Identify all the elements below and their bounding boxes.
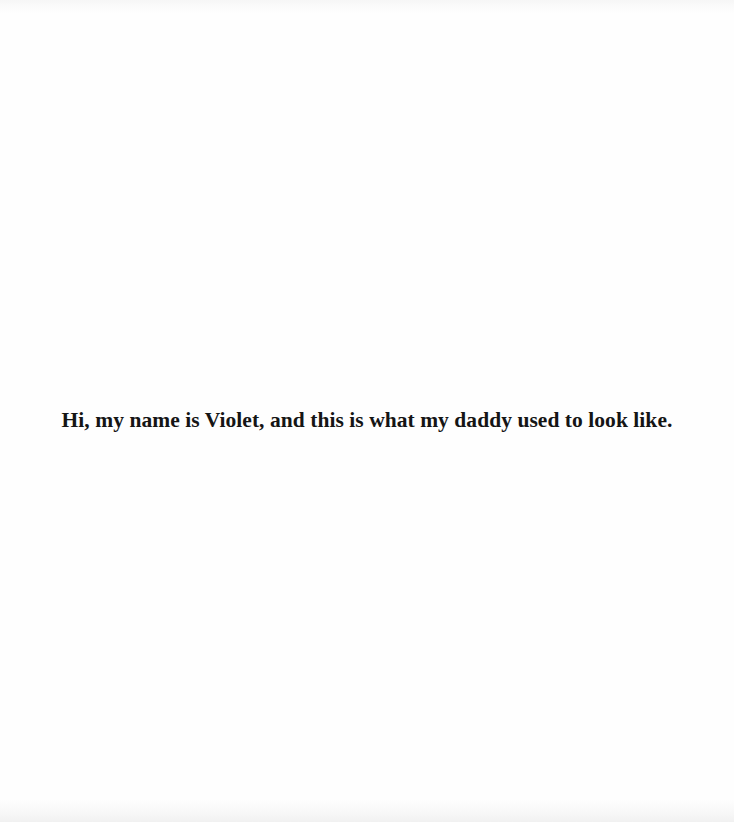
scan-edge-bottom xyxy=(0,800,734,822)
page-caption: Hi, my name is Violet, and this is what … xyxy=(0,405,734,435)
scan-edge-top xyxy=(0,0,734,14)
book-page: Hi, my name is Violet, and this is what … xyxy=(0,0,734,822)
